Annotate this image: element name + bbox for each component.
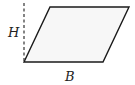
parallelogram-diagram: H B <box>0 0 135 85</box>
height-label: H <box>7 25 20 40</box>
parallelogram-shape <box>24 7 129 62</box>
base-label: B <box>64 69 75 84</box>
